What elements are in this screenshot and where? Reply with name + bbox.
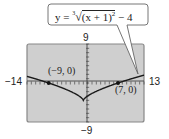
- xmax-label: 13: [149, 77, 160, 87]
- graph-figure: y = 3√(x + 1)2 − 4 9 −9 −14 13 (−9, 0) (…: [0, 0, 169, 139]
- equation-tail: − 4: [115, 11, 132, 23]
- xmin-label: −14: [5, 77, 22, 87]
- equation-label: y = 3√(x + 1)2 − 4: [55, 8, 133, 23]
- point-label-left: (−9, 0): [48, 66, 75, 76]
- ymin-label: −9: [81, 126, 92, 136]
- ymax-label: 9: [83, 33, 89, 43]
- x-intercept-point-left: [47, 81, 51, 85]
- radical-sign: √: [75, 10, 82, 24]
- radicand: (x + 1): [82, 11, 112, 23]
- point-label-right: (7, 0): [115, 85, 137, 95]
- root-index: 3: [72, 10, 75, 16]
- equation-lhs: y =: [55, 11, 72, 23]
